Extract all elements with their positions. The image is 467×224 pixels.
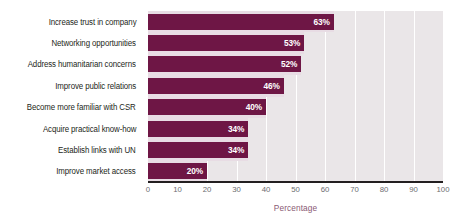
x-tick-label: 80 [380, 185, 389, 194]
bar-value-label: 46% [263, 81, 279, 91]
bar-value-label: 34% [228, 124, 244, 134]
bar-row: 46% [148, 75, 443, 96]
category-label-row: Improve public relations [0, 75, 142, 96]
bar[interactable]: 20% [148, 163, 207, 179]
bar[interactable]: 53% [148, 35, 304, 51]
x-axis-title: Percentage [148, 203, 443, 213]
bar-value-label: 20% [187, 166, 203, 176]
x-tick-label: 50 [291, 185, 300, 194]
category-label: Establish links with UN [58, 145, 136, 155]
category-label: Improve public relations [55, 81, 136, 91]
bar[interactable]: 46% [148, 78, 284, 94]
category-label-row: Address humanitarian concerns [0, 54, 142, 75]
x-tick-label: 100 [436, 185, 449, 194]
category-label: Improve market access [57, 166, 136, 176]
bars-layer: 63%53%52%46%40%34%34%20% [148, 11, 443, 182]
bar[interactable]: 34% [148, 142, 248, 158]
category-label-row: Establish links with UN [0, 139, 142, 160]
bar-row: 34% [148, 118, 443, 139]
category-label: Increase trust in company [48, 17, 136, 27]
x-tick-label: 70 [350, 185, 359, 194]
bar-value-label: 63% [314, 17, 330, 27]
category-label: Acquire practical know-how [43, 124, 136, 134]
x-tick-label: 30 [232, 185, 241, 194]
bar-value-label: 53% [284, 38, 300, 48]
category-label-row: Networking opportunities [0, 32, 142, 53]
bar[interactable]: 63% [148, 14, 334, 30]
x-tick-label: 40 [262, 185, 271, 194]
bar-row: 53% [148, 32, 443, 53]
bar-value-label: 34% [228, 145, 244, 155]
bar[interactable]: 34% [148, 121, 248, 137]
x-axis-tick-labels: 0102030405060708090100 [148, 185, 443, 197]
x-tick-label: 10 [173, 185, 182, 194]
bar[interactable]: 52% [148, 56, 301, 72]
bar-row: 52% [148, 54, 443, 75]
category-label-row: Increase trust in company [0, 11, 142, 32]
category-label: Address humanitarian concerns [28, 59, 136, 69]
x-tick-label: 0 [146, 185, 150, 194]
plot-area: 63%53%52%46%40%34%34%20% [148, 11, 443, 182]
x-tick-label: 60 [321, 185, 330, 194]
x-axis-line [148, 181, 443, 183]
x-tick-label: 90 [409, 185, 418, 194]
bar-value-label: 52% [281, 59, 297, 69]
bar-chart-figure: Increase trust in companyNetworking oppo… [0, 0, 467, 224]
category-label-row: Become more familiar with CSR [0, 97, 142, 118]
category-axis: Increase trust in companyNetworking oppo… [0, 11, 142, 182]
bar-row: 34% [148, 139, 443, 160]
bar[interactable]: 40% [148, 99, 266, 115]
x-tick-label: 20 [203, 185, 212, 194]
category-label-row: Acquire practical know-how [0, 118, 142, 139]
bar-row: 40% [148, 97, 443, 118]
gridline-vertical [443, 11, 444, 182]
category-label-row: Improve market access [0, 161, 142, 182]
category-label: Become more familiar with CSR [27, 102, 136, 112]
bar-value-label: 40% [246, 102, 262, 112]
category-label: Networking opportunities [52, 38, 136, 48]
bar-row: 20% [148, 161, 443, 182]
bar-row: 63% [148, 11, 443, 32]
